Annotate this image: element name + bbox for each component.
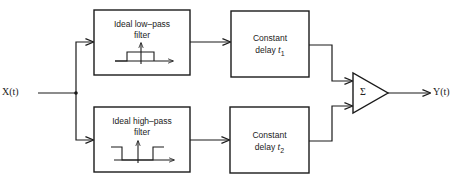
highpass-label-line1: Ideal high–pass — [94, 116, 190, 127]
wire-to-lowpass — [76, 42, 93, 93]
lowpass-label-line2: filter — [94, 30, 190, 41]
wire-delay1-to-summer — [309, 45, 352, 81]
delay1-label-line1: Constant — [231, 33, 309, 44]
delay2-label: Constant delay t2 — [230, 130, 309, 156]
delay2-prefix: delay — [255, 142, 278, 152]
delay1-sub: 1 — [281, 50, 285, 57]
wire-to-highpass — [76, 93, 93, 140]
input-signal-label: X(t) — [2, 86, 19, 97]
summer-block — [353, 73, 388, 113]
delay2-label-line2: delay t2 — [230, 141, 309, 156]
delay2-label-line1: Constant — [230, 130, 309, 141]
delay1-label: Constant delay t1 — [231, 33, 309, 59]
output-signal-label: Y(t) — [433, 86, 450, 97]
highpass-label: Ideal high–pass filter — [94, 116, 190, 138]
lowpass-label: Ideal low–pass filter — [94, 19, 190, 41]
delay1-label-line2: delay t1 — [231, 44, 309, 59]
highpass-response-icon — [111, 141, 174, 163]
block-diagram-canvas — [0, 0, 456, 181]
lowpass-response-icon — [115, 43, 173, 64]
lowpass-label-line1: Ideal low–pass — [94, 19, 190, 30]
sigma-symbol: Σ — [360, 86, 366, 97]
delay2-sub: 2 — [280, 147, 284, 154]
highpass-label-line2: filter — [94, 127, 190, 138]
delay1-prefix: delay — [255, 45, 278, 55]
wire-delay2-to-summer — [309, 106, 352, 141]
